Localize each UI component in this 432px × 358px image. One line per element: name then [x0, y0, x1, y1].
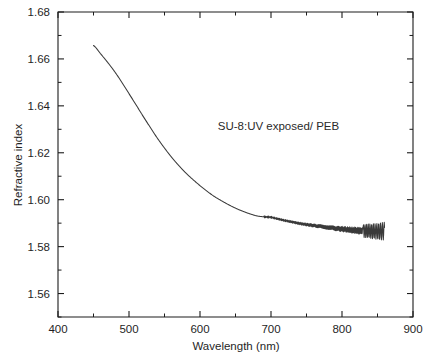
- chart-background: [0, 0, 432, 358]
- y-tick-label: 1.56: [28, 288, 50, 300]
- sample-annotation-label: SU-8:UV exposed/ PEB: [218, 120, 340, 132]
- y-tick-label: 1.58: [28, 241, 50, 253]
- x-axis-title: Wavelength (nm): [192, 340, 279, 352]
- x-tick-label: 400: [48, 323, 67, 335]
- refractive-index-chart: 400500600700800900 1.561.581.601.621.641…: [0, 0, 432, 358]
- x-tick-label: 800: [332, 323, 351, 335]
- x-tick-label: 900: [403, 323, 422, 335]
- y-tick-label: 1.66: [28, 53, 50, 65]
- y-tick-label: 1.68: [28, 6, 50, 18]
- figure-container: 400500600700800900 1.561.581.601.621.641…: [0, 0, 432, 358]
- x-tick-label: 700: [261, 323, 280, 335]
- x-tick-label: 500: [119, 323, 138, 335]
- y-tick-label: 1.62: [28, 147, 50, 159]
- y-axis-title: Refractive index: [12, 124, 24, 207]
- y-tick-label: 1.64: [28, 100, 51, 112]
- x-tick-label: 600: [190, 323, 209, 335]
- y-tick-label: 1.60: [28, 194, 50, 206]
